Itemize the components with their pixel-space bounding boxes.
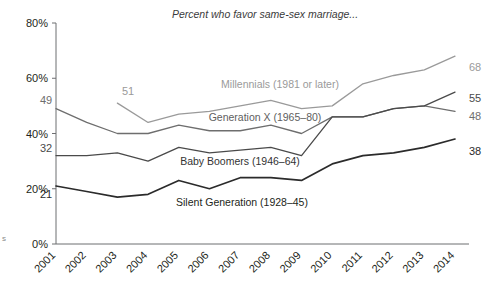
x-axis-tick-label: 2006: [185, 249, 211, 275]
x-axis-tick-label: 2005: [154, 249, 180, 275]
y-axis-tick-label: 60%: [26, 72, 48, 84]
margin-stub-text: s: [2, 234, 6, 243]
x-axis-group: 2001200220032004200520062007200820092010…: [32, 244, 469, 275]
y-axis-group: 0%20%40%60%80%: [26, 17, 56, 250]
chart-figure: 0%20%40%60%80% 2001200220032004200520062…: [0, 0, 501, 289]
x-axis-tick-label: 2007: [216, 249, 242, 275]
series-inline-label: Generation X (1965–80): [209, 111, 322, 123]
series-line: [56, 139, 455, 197]
series-start-value-label: 51: [122, 85, 134, 97]
chart-title: Percent who favor same-sex marriage...: [172, 8, 358, 20]
x-axis-tick-label: 2014: [431, 249, 457, 275]
series-start-value-label: 49: [40, 94, 52, 106]
x-axis-tick-label: 2002: [62, 249, 88, 275]
x-axis-tick-label: 2008: [246, 249, 272, 275]
x-axis-tick-label: 2013: [400, 249, 426, 275]
series-inline-label: Millennials (1981 or later): [221, 78, 339, 90]
x-axis-tick-label: 2010: [308, 249, 334, 275]
series-end-value-label: 38: [469, 145, 481, 157]
line-chart-svg: 0%20%40%60%80% 2001200220032004200520062…: [0, 0, 501, 289]
x-axis-tick-label: 2011: [339, 249, 364, 274]
y-axis-tick-label: 0%: [32, 238, 48, 250]
x-axis-tick-label: 2012: [369, 249, 395, 275]
x-axis-tick-label: 2001: [32, 249, 58, 275]
series-end-value-label: 48: [469, 110, 481, 122]
annotations-group: Percent who favor same-sex marriage...Mi…: [2, 8, 481, 243]
series-inline-label: Baby Boomers (1946–64): [180, 155, 300, 167]
series-end-value-label: 68: [469, 61, 481, 73]
series-start-value-label: 32: [40, 142, 52, 154]
series-inline-label: Silent Generation (1928–45): [176, 196, 308, 208]
series-start-value-label: 21: [40, 188, 52, 200]
x-axis-tick-label: 2004: [124, 249, 150, 275]
series-line: [56, 92, 455, 161]
x-axis-tick-label: 2003: [93, 249, 119, 275]
y-axis-tick-label: 80%: [26, 17, 48, 29]
series-end-value-label: 55: [469, 92, 481, 104]
y-axis-tick-label: 40%: [26, 128, 48, 140]
x-axis-tick-label: 2009: [277, 249, 303, 275]
